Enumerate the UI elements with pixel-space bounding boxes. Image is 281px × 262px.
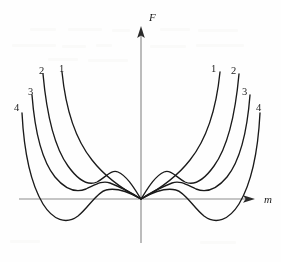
curve-label-3-left: 3 [28, 86, 33, 97]
landau-free-energy-figure: F m 1 2 3 4 1 2 3 4 [0, 0, 281, 262]
curve-label-2-left: 2 [39, 65, 44, 76]
curve-label-2-right: 2 [231, 65, 236, 76]
curve-label-1-right: 1 [211, 63, 216, 74]
curve-label-1-left: 1 [59, 63, 64, 74]
curve-label-4-right: 4 [256, 102, 262, 113]
curve-label-3-right: 3 [242, 86, 247, 97]
curve-label-4-left: 4 [14, 102, 20, 113]
free-energy-axis-label: F [148, 11, 156, 23]
magnetization-axis-label: m [264, 193, 272, 205]
plot-canvas: F m 1 2 3 4 1 2 3 4 [0, 0, 281, 262]
